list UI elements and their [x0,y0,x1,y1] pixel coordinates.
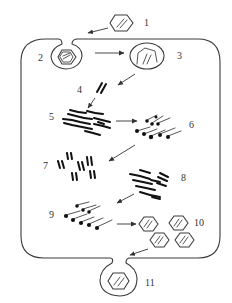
virion [175,233,194,247]
stage-4-nucleic-acid [97,83,106,93]
stage-5-replication [63,110,110,135]
diagram-canvas: 1 2 3 4 5 [0,0,232,303]
arrow-4-to-5 [88,98,95,108]
stage-9-assembly [64,202,112,230]
arrow-10-to-11 [130,249,148,255]
virus-replication-diagram: 1 2 3 4 5 [0,0,232,303]
label-4: 4 [77,84,82,95]
stage-10-virions [139,216,194,247]
arrow-6-to-7 [109,145,135,161]
stage-1-virion [110,15,133,31]
label-6: 6 [189,119,194,130]
stage-8-protein-synthesis [130,170,168,199]
stage-2-vesicle [58,50,76,64]
label-3: 3 [177,50,182,61]
arrow-3-to-4 [118,74,135,85]
stage-6-translation [135,115,181,139]
label-9: 9 [49,209,54,220]
stage-3-uncoating [130,43,164,69]
label-8: 8 [181,172,186,183]
arrow-1-to-2 [88,28,108,33]
virion [150,233,169,247]
label-7: 7 [43,160,48,171]
label-10: 10 [194,217,204,228]
label-1: 1 [144,17,149,28]
virion [139,217,158,231]
cell-membrane [21,39,220,296]
virion [169,216,188,230]
stage-11-release [108,273,129,289]
label-11: 11 [145,277,155,288]
arrow-8-to-9 [117,194,134,203]
label-2: 2 [38,52,43,63]
label-5: 5 [49,111,54,122]
stage-7-copies [58,153,95,180]
